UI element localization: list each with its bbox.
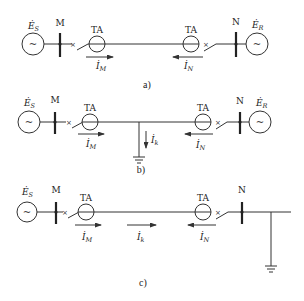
bus-m-label: M: [55, 18, 64, 28]
ct-right-label: TA: [197, 193, 210, 203]
source-right-icon: ~: [249, 111, 271, 133]
current-n-label: İN: [195, 139, 206, 152]
svg-text:~: ~: [256, 117, 264, 128]
svg-text:~: ~: [25, 117, 33, 128]
breaker-mark-icon: ×: [203, 41, 209, 49]
bus-node-icon: [54, 210, 57, 213]
bus-node-icon: [53, 120, 56, 123]
bus-n-label: N: [236, 96, 244, 106]
source-right-icon: ~: [246, 33, 268, 55]
breaker-blade: [72, 122, 83, 128]
diagram-b: ~ ĖS M × TA İk TA × N ~: [18, 95, 271, 176]
ground-icon: [133, 157, 145, 163]
source-right-label: ĖR: [251, 19, 264, 32]
diagram-a: ~ ĖS M × TA TA × N ~ ĖR İM İN a): [22, 17, 268, 91]
current-m-label: İM: [85, 138, 97, 151]
source-left-label: ĖS: [23, 97, 36, 110]
caption-c: c): [139, 277, 147, 289]
ct-left-label: TA: [91, 25, 104, 35]
bus-n-label: N: [238, 185, 246, 195]
ct-right-label: TA: [197, 103, 210, 113]
breaker-mark-icon: ×: [70, 41, 76, 49]
source-left-icon: ~: [22, 33, 44, 55]
breaker-mark-icon: ×: [215, 119, 221, 127]
bus-m-label: M: [51, 185, 60, 195]
relay-protection-diagram: ~ ĖS M × TA TA × N ~ ĖR İM İN a): [0, 0, 304, 301]
svg-text:~: ~: [23, 207, 31, 218]
current-n-label: İN: [183, 60, 194, 73]
fault-current-label: İk: [150, 134, 159, 147]
bus-m-label: M: [50, 95, 59, 105]
breaker-mark-icon: ×: [215, 209, 221, 217]
breaker-mark-icon: ×: [62, 209, 68, 217]
current-m-label: İM: [95, 60, 107, 73]
ct-right-label: TA: [185, 25, 198, 35]
ct-left-label: TA: [84, 103, 97, 113]
fault-current-label: İk: [136, 231, 145, 244]
breaker-blade: [77, 44, 88, 50]
breaker-mark-icon: ×: [66, 119, 72, 127]
source-right-label: ĖR: [255, 97, 268, 110]
svg-text:~: ~: [253, 39, 261, 50]
bus-node-icon: [238, 120, 241, 123]
bus-node-icon: [58, 42, 61, 45]
source-left-label: ĖS: [27, 20, 40, 33]
source-left-label: ĖS: [21, 186, 34, 199]
source-left-icon: ~: [18, 111, 40, 133]
breaker-blade: [68, 212, 79, 218]
caption-a: a): [143, 79, 151, 91]
caption-b: b): [137, 164, 145, 176]
bus-node-icon: [240, 210, 243, 213]
bus-node-icon: [234, 42, 237, 45]
ground-icon: [265, 266, 277, 272]
current-m-label: İM: [81, 231, 93, 244]
source-left-icon: ~: [17, 202, 37, 222]
current-n-label: İN: [199, 231, 210, 244]
diagram-c: ~ ĖS M × TA TA × N İM İk: [17, 185, 291, 289]
ct-left-label: TA: [80, 193, 93, 203]
bus-n-label: N: [232, 17, 240, 27]
svg-text:~: ~: [29, 39, 37, 50]
